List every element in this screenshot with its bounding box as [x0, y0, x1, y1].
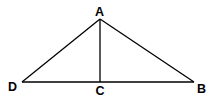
segment-ab — [100, 19, 194, 82]
segment-ad — [22, 19, 100, 82]
label-point-d: D — [8, 80, 17, 94]
geometry-diagram: A D B C — [0, 0, 210, 101]
label-point-c: C — [95, 84, 104, 98]
label-point-b: B — [197, 82, 206, 96]
label-point-a: A — [95, 5, 104, 19]
